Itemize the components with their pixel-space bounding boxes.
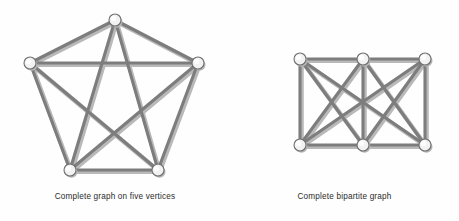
vertex-highlight-v3	[154, 166, 159, 171]
vertex-highlight-v2	[194, 59, 199, 64]
complete-graph-canvas	[0, 0, 230, 186]
bipartite-graph-drawing	[230, 0, 459, 186]
figure-sheet: Complete graph on five vertices Complete…	[0, 0, 459, 221]
edge-v1-v3	[115, 20, 158, 170]
vertex-highlight-t3	[421, 55, 426, 60]
vertex-layer	[24, 14, 206, 178]
edge-layer	[300, 59, 425, 145]
edge-layer	[30, 20, 198, 170]
figure-panel-bipartite-graph: Complete bipartite graph	[230, 0, 459, 221]
vertex-highlight-b2	[359, 141, 364, 146]
vertex-highlight-v1	[111, 16, 116, 21]
complete-graph-drawing	[0, 0, 230, 186]
vertex-highlight-v4	[66, 166, 71, 171]
vertex-highlight-b3	[421, 141, 426, 146]
edge-v1-v5	[30, 20, 115, 63]
bipartite-graph-canvas	[230, 0, 459, 186]
vertex-highlight-v5	[26, 59, 31, 64]
caption-bipartite-graph: Complete bipartite graph	[230, 192, 459, 201]
vertex-highlight-b1	[296, 141, 301, 146]
caption-complete-graph: Complete graph on five vertices	[0, 192, 230, 201]
vertex-highlight-t1	[296, 55, 301, 60]
vertex-highlight-t2	[359, 55, 364, 60]
edge-shadow-layer	[32, 22, 200, 172]
figure-panel-complete-graph: Complete graph on five vertices	[0, 0, 230, 221]
